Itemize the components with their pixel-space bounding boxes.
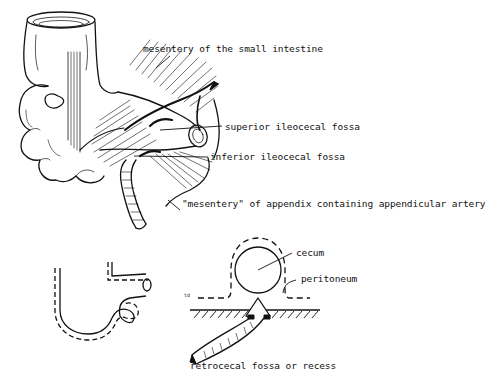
leader-inferior — [134, 156, 208, 157]
label-td-mark: td — [184, 293, 190, 298]
label-peritoneum: peritoneum — [301, 274, 357, 284]
label-cecum: cecum — [296, 248, 324, 258]
leader-cecum — [258, 253, 292, 270]
label-mesentery-small-intestine: mesentery of the small intestine — [143, 44, 323, 54]
colon-opening-ellipse — [27, 12, 95, 28]
retrocecal-arrow — [190, 298, 270, 364]
fossa-cross-section — [55, 262, 151, 340]
label-retrocecal-fossa: retrocecal fossa or recess — [190, 361, 336, 371]
leader-appendix-mesentery — [168, 200, 180, 210]
label-superior-ileocecal-fossa: superior ileocecal fossa — [225, 122, 360, 132]
label-mesentery-of-appendix: "mesentery" of appendix containing appen… — [182, 199, 485, 209]
label-inferior-ileocecal-fossa: inferior ileocecal fossa — [210, 152, 345, 162]
leader-superior — [160, 126, 222, 130]
